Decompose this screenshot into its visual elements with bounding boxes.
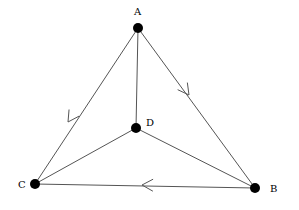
edge-d-c [35,128,136,184]
node-label-c: C [18,179,26,190]
edge-b-c [35,184,255,188]
graph-diagram: ABCD [0,0,299,210]
node-label-b: B [270,183,277,194]
node-c [30,179,40,189]
node-label-a: A [133,6,142,17]
edge-a-c [35,28,138,184]
node-d [131,123,141,133]
node-a [133,23,143,33]
arrowhead-icon [142,179,153,191]
edges-group [35,28,255,188]
arrows-group [68,83,189,192]
node-label-d: D [146,117,154,128]
edge-a-d [136,28,138,128]
node-b [250,183,260,193]
edge-a-b [138,28,255,188]
edge-d-b [136,128,255,188]
